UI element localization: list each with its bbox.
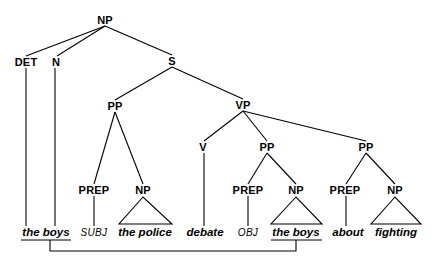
node-np-3: NP	[387, 184, 403, 196]
leaf-the-boys-right: the boys	[272, 226, 319, 238]
node-s: S	[168, 55, 176, 67]
leaf-the-police: the police	[118, 226, 172, 238]
edge-pp3-np3	[366, 153, 395, 184]
node-det: DET	[15, 56, 38, 68]
node-vp: VP	[235, 99, 250, 111]
edge-s-vp	[172, 67, 243, 99]
node-prep-1: PREP	[79, 184, 110, 196]
leaf-the-boys-left: the boys	[22, 226, 69, 238]
edge-pp3-prep3	[346, 153, 366, 184]
node-prep-3: PREP	[330, 184, 361, 196]
node-np-root: NP	[97, 14, 113, 26]
edge-vp-pp3	[243, 111, 366, 141]
leaf-debate: debate	[186, 226, 223, 238]
node-np-1: NP	[135, 184, 151, 196]
triangle-fighting	[371, 197, 421, 224]
node-prep-2: PREP	[233, 184, 264, 196]
leaf-fighting: fighting	[375, 226, 417, 238]
edge-pp1-prep1	[94, 112, 115, 184]
edge-np-det	[26, 26, 105, 56]
tree-edges	[26, 26, 395, 226]
syntax-tree-figure: NP DET N S PP VP PREP NP V PP PP PREP NP…	[0, 0, 443, 271]
movement-link-path	[50, 240, 296, 251]
node-pp-1: PP	[107, 100, 122, 112]
leaf-subj: SUBJ	[81, 227, 108, 238]
edge-vp-v	[204, 111, 243, 141]
edge-pp1-np1	[115, 112, 143, 184]
triangle-the-boys-right	[271, 197, 322, 224]
edge-s-pp1	[115, 67, 172, 100]
constituent-triangles	[119, 197, 421, 224]
node-pp-2: PP	[259, 141, 274, 153]
node-n: N	[52, 56, 60, 68]
leaf-about: about	[332, 226, 363, 238]
leaf-obj: OBJ	[238, 227, 258, 238]
edge-pp2-prep2	[248, 153, 267, 184]
triangle-the-police	[119, 197, 172, 224]
node-pp-3: PP	[358, 141, 373, 153]
node-v: V	[199, 141, 207, 153]
edge-np-s	[105, 26, 172, 55]
edge-pp2-np2	[267, 153, 296, 184]
node-np-2: NP	[288, 184, 304, 196]
movement-link	[50, 240, 296, 251]
